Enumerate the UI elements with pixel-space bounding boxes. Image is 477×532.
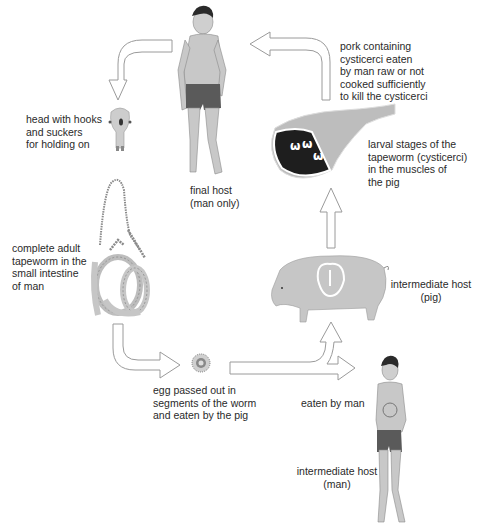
pork-label: pork containingcysticerci eatenby man ra… xyxy=(340,40,428,103)
eaten-by-man-label: eaten by man xyxy=(301,397,365,410)
arrow-worm-to-egg xyxy=(113,324,180,378)
intermediate-man-label: intermediate host(man) xyxy=(292,465,382,490)
final-host-man-figure xyxy=(178,6,226,174)
pig-label: intermediate host(pig) xyxy=(385,278,477,303)
scolex-head-icon xyxy=(109,108,132,151)
svg-text:ω: ω xyxy=(290,139,300,153)
arrow-egg-to-pig-and-man xyxy=(230,322,355,380)
egg-label: egg passed out insegments of the wormand… xyxy=(153,384,256,422)
svg-text:ω: ω xyxy=(302,137,312,151)
adult-tapeworm-icon xyxy=(94,180,147,315)
head-label: head with hooksand suckersfor holding on xyxy=(26,113,102,151)
svg-text:ω: ω xyxy=(313,149,323,163)
pig-icon xyxy=(272,256,389,322)
final-host-label: final host(man only) xyxy=(190,184,240,209)
intermediate-host-man-figure xyxy=(376,356,406,522)
arrow-pork-to-final-host xyxy=(250,32,330,100)
egg-icon xyxy=(192,354,210,372)
larval-label: larval stages of thetapeworm (cysticerci… xyxy=(368,138,467,188)
adult-worm-label: complete adulttapeworm in thesmall intes… xyxy=(12,242,87,292)
arrow-final-host-to-head xyxy=(109,40,172,100)
arrow-pig-to-larval xyxy=(320,188,342,248)
